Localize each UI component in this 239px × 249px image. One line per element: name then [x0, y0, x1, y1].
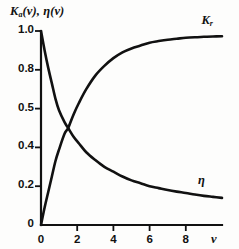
y-tick-label: 0.5: [6, 101, 34, 113]
x-tick-label: 4: [103, 233, 123, 245]
y-tick-label: 0.8: [6, 62, 34, 74]
y-tick-label: 0.2: [6, 178, 34, 190]
x-tick-label: 8: [176, 233, 196, 245]
chart-figure: Ka(v), η(v) 1.00.80.50.40.20 02468 Kr η …: [0, 0, 239, 249]
curve-k-r: [41, 36, 222, 225]
curve-label-k-text: K: [202, 13, 210, 27]
x-tick-label: 2: [67, 233, 87, 245]
y-tick-label: 1.0: [6, 23, 34, 35]
y-tick-label: 0.4: [6, 139, 34, 151]
curve-label-k-r: Kr: [202, 13, 213, 28]
y-tick-label: 0: [6, 217, 34, 229]
curve-eta: [41, 31, 222, 198]
x-tick-label: 6: [140, 233, 160, 245]
curve-label-eta: η: [198, 173, 205, 188]
curve-label-k-subscript: r: [210, 19, 213, 28]
x-tick-label: 0: [31, 233, 51, 245]
x-axis-name: v: [211, 232, 217, 247]
plot-canvas: [0, 0, 239, 249]
